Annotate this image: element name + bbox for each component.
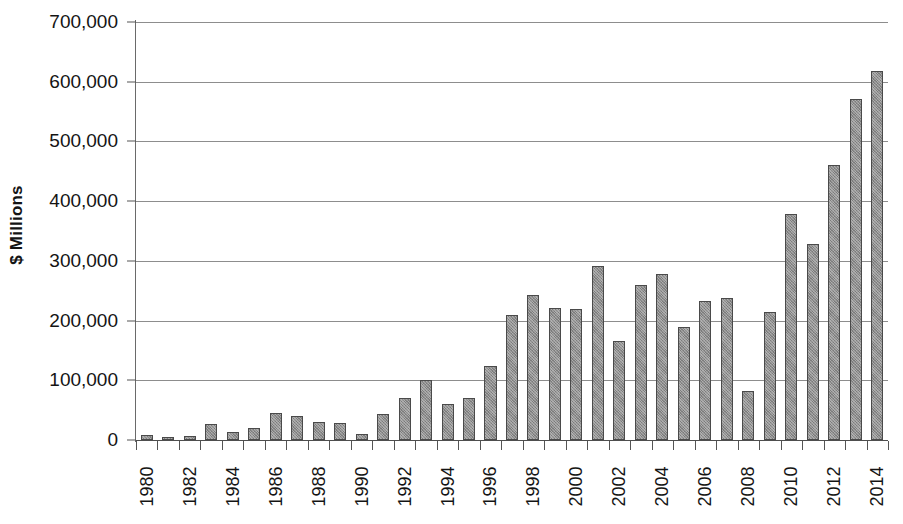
y-axis-tick-label: 500,000 — [49, 130, 118, 152]
bar-1985[interactable] — [248, 428, 260, 440]
x-axis-tick-label-1986: 1986 — [265, 452, 286, 522]
x-axis-tick-mark — [523, 441, 524, 450]
y-axis-tick-mark — [127, 440, 136, 441]
bar-1999[interactable] — [549, 308, 561, 440]
x-axis-tick-mark — [458, 441, 459, 450]
bar-2000[interactable] — [570, 309, 582, 440]
bar-2004[interactable] — [656, 274, 668, 440]
y-axis-title-label: $ Millions — [7, 185, 27, 264]
x-axis-tick-label-text: 1998 — [523, 466, 544, 506]
bar-2014[interactable] — [871, 71, 883, 440]
x-axis-tick-mark — [609, 441, 610, 450]
bar-2008[interactable] — [742, 391, 754, 440]
bar-1998[interactable] — [527, 295, 539, 440]
x-axis-tick-mark — [630, 441, 631, 450]
bar-2007[interactable] — [721, 298, 733, 440]
bar-1995[interactable] — [463, 398, 475, 440]
x-axis-tick-mark — [243, 441, 244, 450]
bar-1986[interactable] — [270, 413, 282, 440]
bar-slot — [738, 22, 759, 440]
x-axis-tick-mark — [200, 441, 201, 450]
x-axis-tick-mark — [415, 441, 416, 450]
bar-slot — [157, 22, 178, 440]
bar-slot — [480, 22, 501, 440]
x-axis-tick-label-2002: 2002 — [609, 452, 630, 522]
x-axis-tick-label-text: 2002 — [609, 466, 630, 506]
y-axis-tick-label: 700,000 — [49, 11, 118, 33]
x-axis-tick-mark — [716, 441, 717, 450]
bar-1987[interactable] — [291, 416, 303, 440]
x-axis-tick-label-text: 1988 — [308, 466, 329, 506]
y-axis-tick-mark — [127, 141, 136, 142]
x-axis-tick-mark — [372, 441, 373, 450]
bar-1983[interactable] — [205, 424, 217, 440]
bar-slot — [523, 22, 544, 440]
x-axis-tick-mark — [781, 441, 782, 450]
bar-1989[interactable] — [334, 423, 346, 440]
bar-slot — [501, 22, 522, 440]
bar-slot — [415, 22, 436, 440]
bar-2003[interactable] — [635, 285, 647, 440]
x-axis-tick-mark — [695, 441, 696, 450]
x-axis-tick-label-text: 1992 — [394, 466, 415, 506]
x-axis-tick-label-text: 2008 — [738, 466, 759, 506]
bar-1993[interactable] — [420, 380, 432, 440]
bar-2010[interactable] — [785, 214, 797, 440]
x-axis-tick-mark — [136, 441, 137, 450]
x-axis-tick-label-text: 2000 — [566, 466, 587, 506]
y-axis-tick-mark — [127, 22, 136, 23]
x-axis-tick-label-2000: 2000 — [566, 452, 587, 522]
bar-slot — [544, 22, 565, 440]
bar-2001[interactable] — [592, 266, 604, 440]
x-axis-tick-mark — [802, 441, 803, 450]
x-axis-ticks — [136, 441, 888, 450]
x-axis-tick-mark — [652, 441, 653, 450]
x-axis-tick-label-1982: 1982 — [179, 452, 200, 522]
x-axis-tick-label-text: 1990 — [351, 466, 372, 506]
y-axis-tick-mark — [127, 380, 136, 381]
x-axis-tick-mark — [308, 441, 309, 450]
bar-2006[interactable] — [699, 301, 711, 440]
bars-layer — [136, 22, 888, 440]
y-axis-tick-mark — [127, 260, 136, 261]
bar-2009[interactable] — [764, 312, 776, 440]
bar-2002[interactable] — [613, 341, 625, 440]
x-axis-tick-label-2004: 2004 — [652, 452, 673, 522]
bar-slot — [222, 22, 243, 440]
bar-slot — [308, 22, 329, 440]
bar-1991[interactable] — [377, 414, 389, 440]
x-axis-tick-mark — [394, 441, 395, 450]
x-axis-tick-label-text: 1996 — [480, 466, 501, 506]
bar-slot — [265, 22, 286, 440]
x-axis-tick-mark — [824, 441, 825, 450]
y-axis-tick-label: 0 — [107, 429, 118, 451]
bar-slot — [802, 22, 823, 440]
bar-2011[interactable] — [807, 244, 819, 440]
bar-1988[interactable] — [313, 422, 325, 441]
x-axis-tick-label-1984: 1984 — [222, 452, 243, 522]
x-axis-tick-label-text: 1980 — [136, 466, 157, 506]
bar-2013[interactable] — [850, 99, 862, 440]
bar-slot — [695, 22, 716, 440]
bar-1997[interactable] — [506, 315, 518, 440]
y-axis-tick-label: 200,000 — [49, 310, 118, 332]
y-axis-title: $ Millions — [0, 0, 34, 450]
bar-1984[interactable] — [227, 432, 239, 440]
y-axis-tick-labels: 700,000600,000500,000400,000300,000200,0… — [34, 0, 126, 450]
bar-1994[interactable] — [442, 404, 454, 440]
bar-slot — [136, 22, 157, 440]
bar-slot — [437, 22, 458, 440]
x-axis-tick-label-text: 1982 — [179, 466, 200, 506]
bar-slot — [759, 22, 780, 440]
bar-1992[interactable] — [399, 398, 411, 440]
bar-slot — [566, 22, 587, 440]
bar-slot — [179, 22, 200, 440]
x-axis-tick-label-1992: 1992 — [394, 452, 415, 522]
bar-1996[interactable] — [484, 366, 496, 440]
bar-2012[interactable] — [828, 165, 840, 440]
x-axis-tick-label-2008: 2008 — [738, 452, 759, 522]
bar-slot — [351, 22, 372, 440]
x-axis-tick-label-2006: 2006 — [695, 452, 716, 522]
bar-2005[interactable] — [678, 327, 690, 440]
x-axis-tick-label-2014: 2014 — [867, 452, 888, 522]
